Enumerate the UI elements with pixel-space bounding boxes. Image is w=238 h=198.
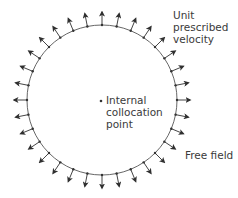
- velocity-arrow-icon: [16, 83, 29, 86]
- velocity-arrow-icon: [176, 115, 189, 118]
- velocity-arrow-icon: [21, 66, 33, 71]
- label-line: collocation: [106, 106, 163, 118]
- velocity-arrow-icon: [176, 83, 189, 86]
- velocity-arrow-icon: [144, 162, 151, 173]
- boundary-node: [170, 128, 172, 130]
- velocity-arrow-icon: [85, 14, 88, 27]
- label-line: Internal: [106, 94, 163, 106]
- velocity-arrow-icon: [155, 38, 164, 47]
- label-line: point: [106, 118, 163, 130]
- internal-collocation-point-marker: [100, 100, 103, 103]
- boundary-node: [170, 70, 172, 72]
- boundary-node: [154, 46, 156, 48]
- boundary-node: [59, 161, 61, 163]
- boundary-node: [32, 70, 34, 72]
- label-line: Unit: [173, 9, 228, 21]
- boundary-node: [115, 172, 117, 174]
- boundary-node: [163, 57, 165, 59]
- boundary-node: [154, 152, 156, 154]
- boundary-node: [101, 24, 103, 26]
- velocity-arrow-icon: [40, 38, 49, 47]
- boundary-node: [142, 161, 144, 163]
- label-line: Free field: [185, 149, 233, 161]
- velocity-arrow-icon: [16, 115, 29, 118]
- boundary-node: [142, 36, 144, 38]
- boundary-node: [86, 172, 88, 174]
- boundary-node: [174, 113, 176, 115]
- boundary-node: [38, 57, 40, 59]
- boundary-node: [48, 46, 50, 48]
- velocity-arrow-icon: [155, 153, 164, 162]
- velocity-arrow-icon: [53, 27, 60, 38]
- velocity-arrow-icon: [144, 27, 151, 38]
- boundary-node: [115, 25, 117, 27]
- velocity-arrow-icon: [40, 153, 49, 162]
- velocity-arrow-icon: [171, 129, 183, 134]
- velocity-arrow-icon: [68, 169, 73, 181]
- boundary-node: [32, 128, 34, 130]
- boundary-node: [27, 113, 29, 115]
- internal-collocation-label: Internal collocation point: [106, 94, 163, 130]
- velocity-arrow-icon: [117, 174, 120, 187]
- velocity-arrows: [14, 12, 190, 188]
- boundary-node: [130, 30, 132, 32]
- free-field-label: Free field: [185, 149, 233, 161]
- boundary-node: [26, 99, 28, 101]
- velocity-arrow-icon: [171, 66, 183, 71]
- boundary-node: [101, 174, 103, 176]
- label-line: prescribed: [173, 21, 228, 33]
- boundary-node: [86, 25, 88, 27]
- prescribed-velocity-label: Unit prescribed velocity: [173, 9, 228, 45]
- boundary-node: [176, 99, 178, 101]
- velocity-arrow-icon: [85, 174, 88, 187]
- boundary-node: [48, 152, 50, 154]
- velocity-arrow-icon: [29, 142, 40, 149]
- velocity-arrow-icon: [164, 142, 175, 149]
- boundary-node: [27, 84, 29, 86]
- velocity-arrow-icon: [117, 14, 120, 27]
- velocity-arrow-icon: [68, 19, 73, 31]
- velocity-arrow-icon: [131, 19, 136, 31]
- boundary-node: [59, 36, 61, 38]
- boundary-node: [174, 84, 176, 86]
- boundary-node: [130, 168, 132, 170]
- boundary-node: [72, 168, 74, 170]
- label-line: velocity: [173, 33, 228, 45]
- boundary-node: [72, 30, 74, 32]
- velocity-arrow-icon: [131, 169, 136, 181]
- boundary-node: [38, 140, 40, 142]
- velocity-arrow-icon: [53, 162, 60, 173]
- velocity-arrow-icon: [21, 129, 33, 134]
- velocity-arrow-icon: [164, 51, 175, 58]
- velocity-arrow-icon: [29, 51, 40, 58]
- boundary-node: [163, 140, 165, 142]
